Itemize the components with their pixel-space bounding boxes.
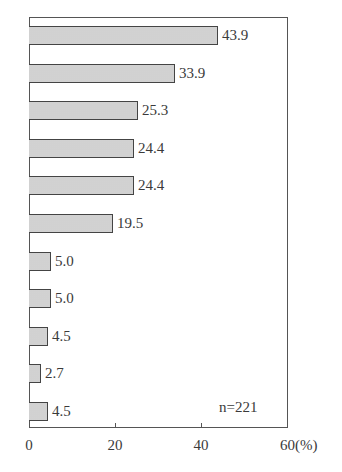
horizontal-bar-chart: 43.933.925.324.424.419.55.05.04.52.74.5 … [0, 0, 342, 472]
x-axis-tick-label: 60(%) [280, 436, 318, 454]
x-axis-tick-label: 0 [25, 436, 33, 454]
bar [29, 101, 138, 120]
bar-value-label: 33.9 [179, 64, 205, 83]
bar-value-label: 19.5 [117, 214, 143, 233]
bar [29, 327, 48, 346]
bar [29, 64, 175, 83]
bar [29, 139, 134, 158]
bar-value-label: 4.5 [52, 402, 71, 421]
bar-value-label: 5.0 [55, 289, 74, 308]
x-axis-tick-label: 20 [108, 436, 123, 454]
bar-value-label: 24.4 [138, 176, 164, 195]
bar [29, 252, 51, 271]
sample-size-annotation: n=221 [219, 398, 257, 416]
bar [29, 364, 41, 383]
x-axis-tick [201, 423, 202, 428]
bar [29, 214, 113, 233]
x-axis-tick [115, 423, 116, 428]
x-axis-tick-label: 40 [194, 436, 209, 454]
bar-value-label: 24.4 [138, 139, 164, 158]
bar-value-label: 43.9 [222, 26, 248, 45]
bar [29, 402, 48, 421]
bar-value-label: 2.7 [45, 364, 64, 383]
bar [29, 289, 51, 308]
bar [29, 176, 134, 195]
bar [29, 26, 218, 45]
bar-value-label: 5.0 [55, 252, 74, 271]
bar-value-label: 25.3 [142, 101, 168, 120]
bar-value-label: 4.5 [52, 327, 71, 346]
